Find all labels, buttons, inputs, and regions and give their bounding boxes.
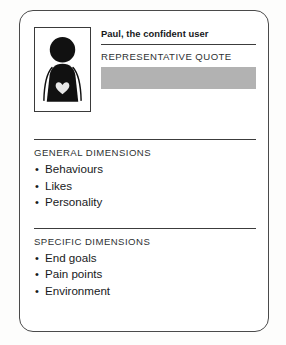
section-specific-dimensions: SPECIFIC DIMENSIONS End goals Pain point…	[34, 228, 256, 300]
list-item: Personality	[34, 194, 256, 211]
specific-dimensions-list: End goals Pain points Environment	[34, 250, 256, 300]
specific-dimensions-divider	[34, 228, 256, 229]
general-dimensions-title: GENERAL DIMENSIONS	[34, 146, 256, 159]
list-item: Environment	[34, 283, 256, 300]
representative-quote-placeholder	[101, 67, 256, 89]
general-dimensions-divider	[34, 139, 256, 140]
name-divider	[101, 44, 256, 45]
specific-dimensions-title: SPECIFIC DIMENSIONS	[34, 235, 256, 248]
persona-header: Paul, the confident user REPRESENTATIVE …	[34, 27, 256, 123]
person-silhouette-with-heart-icon	[35, 28, 90, 111]
list-item: Pain points	[34, 266, 256, 283]
avatar	[34, 27, 91, 112]
general-dimensions-list: Behaviours Likes Personality	[34, 161, 256, 211]
persona-identity: Paul, the confident user REPRESENTATIVE …	[101, 27, 256, 89]
representative-quote-label: REPRESENTATIVE QUOTE	[101, 50, 256, 63]
list-item: Behaviours	[34, 161, 256, 178]
persona-card-content: Paul, the confident user REPRESENTATIVE …	[34, 27, 256, 321]
list-item: Likes	[34, 178, 256, 195]
persona-name: Paul, the confident user	[101, 28, 256, 40]
list-item: End goals	[34, 250, 256, 267]
section-general-dimensions: GENERAL DIMENSIONS Behaviours Likes Pers…	[34, 139, 256, 211]
persona-card: Paul, the confident user REPRESENTATIVE …	[19, 10, 269, 332]
